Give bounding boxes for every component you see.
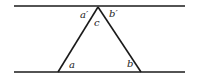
label-a-prime: a′ (80, 9, 89, 20)
triangle-left-side (58, 7, 98, 72)
parallel-lines-triangle-diagram: a′ c b′ a b (0, 0, 198, 79)
label-b-prime: b′ (109, 8, 118, 19)
label-b: b (127, 58, 133, 69)
label-c: c (94, 17, 100, 28)
triangle-right-side (98, 7, 141, 72)
label-a: a (69, 59, 75, 70)
